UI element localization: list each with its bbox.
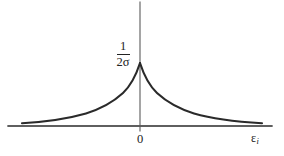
origin-tick-label: 0	[131, 133, 149, 146]
fraction-numerator: 1	[117, 40, 130, 55]
x-axis-subscript: i	[256, 136, 259, 146]
laplace-curve-right	[140, 63, 262, 123]
x-axis-label: εi	[251, 132, 259, 146]
peak-value-label: 1 2σ	[108, 40, 138, 68]
fraction: 1 2σ	[117, 40, 130, 68]
laplace-curve-left	[22, 63, 140, 123]
fraction-denominator: 2σ	[117, 55, 130, 69]
laplace-density-figure: 1 2σ 0 εi	[0, 0, 284, 156]
